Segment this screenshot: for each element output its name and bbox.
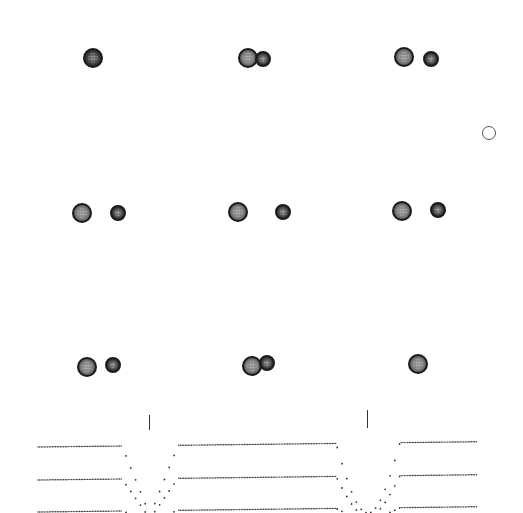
curve-3 (37, 506, 477, 513)
binary-star-figure (0, 0, 523, 513)
light-curves-plot (0, 0, 523, 513)
